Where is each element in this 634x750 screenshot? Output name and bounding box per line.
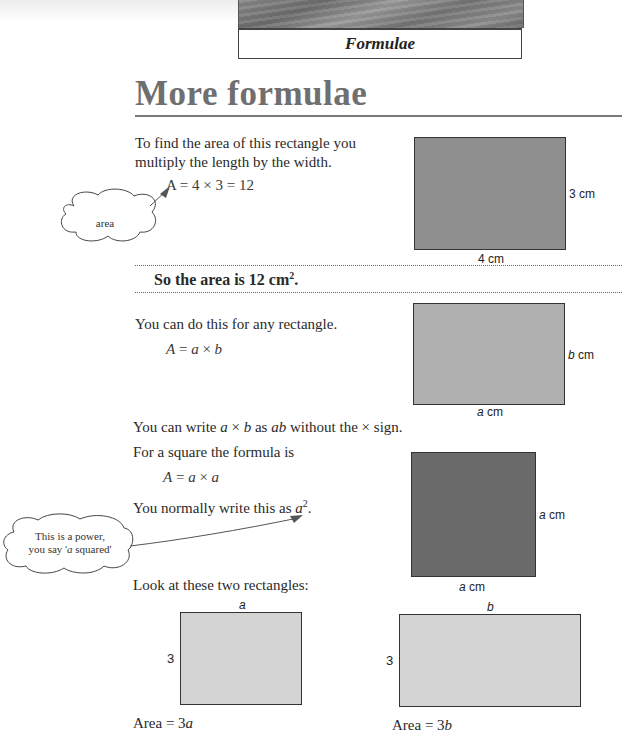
formula-a-times-b: A = a × b — [166, 341, 222, 358]
area-3b-pre: Area = 3 — [392, 717, 445, 733]
area-3a-pre: Area = 3 — [133, 715, 186, 731]
formula-var-b: b — [215, 341, 223, 357]
rect-left-top-var: a — [239, 598, 246, 612]
note-pre: You can write — [133, 419, 220, 435]
callout-curve-arrow — [130, 518, 298, 546]
cloud-label-line-1: This is a power, — [14, 530, 126, 543]
label-square-side: a cm — [539, 508, 565, 522]
label-b-cm: b cm — [568, 348, 594, 362]
ab-notation-note: You can write a × b as ab without the × … — [133, 418, 403, 437]
square-bottom-unit: cm — [466, 580, 485, 594]
area-3b-var: b — [445, 717, 453, 733]
label-a-unit: cm — [484, 405, 503, 419]
label-4cm: 4 cm — [478, 252, 504, 266]
label-a-cm: a cm — [477, 405, 503, 419]
note-as: as — [251, 419, 271, 435]
page-top-shade — [0, 0, 238, 22]
formula-var-A: A — [163, 469, 172, 485]
arrow-head-icon — [290, 515, 303, 523]
cloud-callout-area — [56, 186, 176, 246]
formula-var-a: a — [191, 341, 199, 357]
note-var-ab: ab — [271, 419, 286, 435]
rectangle-3-by-b — [399, 614, 581, 707]
formula-var-A: A — [166, 341, 175, 357]
formula-area-example: A = 4 × 3 = 12 — [166, 177, 254, 194]
formula-equals: = — [175, 341, 191, 357]
label-3cm: 3 cm — [569, 187, 595, 201]
label-a-var: a — [477, 405, 484, 419]
area-3a-var: a — [186, 715, 194, 731]
intro-text-line-2: multiply the length by the width. — [135, 153, 332, 172]
formula-times: × — [196, 469, 212, 485]
rectangle-4x3-diagram — [414, 137, 566, 250]
square-bottom-var: a — [459, 580, 466, 594]
cloud-line2-post: squared' — [73, 543, 112, 555]
conclusion-period: . — [294, 271, 298, 288]
chapter-title: Formulae — [345, 34, 415, 53]
rect-right-top-label: b — [487, 600, 494, 614]
square-a-by-a-diagram — [411, 452, 536, 577]
rectangle-a-by-b-diagram — [413, 303, 565, 405]
cloud-label-area: area — [80, 217, 130, 230]
rectangle-3-by-a — [180, 612, 302, 705]
rect-right-top-var: b — [487, 600, 494, 614]
conclusion-main: So the area is 12 cm — [154, 271, 289, 288]
label-square-bottom: a cm — [459, 580, 485, 594]
formula-equals: = — [172, 469, 188, 485]
chapter-banner-texture — [238, 0, 524, 28]
cloud-label-power: This is a power, you say 'a squared' — [14, 530, 126, 556]
page-title: More formulae — [135, 72, 367, 116]
rect-right-side-label: 3 — [386, 653, 393, 668]
dotted-divider-top — [135, 265, 622, 266]
cloud-line2-pre: you say ' — [28, 543, 67, 555]
intro-text-line-1: To find the area of this rectangle you — [135, 134, 356, 153]
rect-left-top-label: a — [239, 598, 246, 612]
cloud-label-line-2: you say 'a squared' — [14, 543, 126, 556]
title-underline — [135, 115, 622, 117]
label-b-unit: cm — [575, 348, 594, 362]
area-3a-text: Area = 3a — [133, 714, 193, 733]
square-side-unit: cm — [546, 508, 565, 522]
conclusion-text: So the area is 12 cm2. — [154, 270, 298, 289]
note-post: without the × sign. — [286, 419, 402, 435]
square-formula-intro: For a square the formula is — [133, 443, 294, 462]
note-times: × — [228, 419, 244, 435]
arrow-head-icon — [160, 186, 170, 198]
chapter-banner: Formulae — [238, 28, 522, 59]
note-var-a: a — [220, 419, 228, 435]
formula-a-times-a: A = a × a — [163, 469, 219, 486]
square-side-var: a — [539, 508, 546, 522]
formula-times: × — [199, 341, 215, 357]
formula-var-a: a — [188, 469, 196, 485]
dotted-divider-bottom — [135, 292, 622, 293]
label-b-var: b — [568, 348, 575, 362]
two-rectangles-intro: Look at these two rectangles: — [133, 576, 309, 595]
area-3b-text: Area = 3b — [392, 716, 452, 735]
any-rectangle-text: You can do this for any rectangle. — [135, 315, 337, 334]
rect-left-side-label: 3 — [167, 651, 174, 666]
formula-var-a2: a — [212, 469, 220, 485]
